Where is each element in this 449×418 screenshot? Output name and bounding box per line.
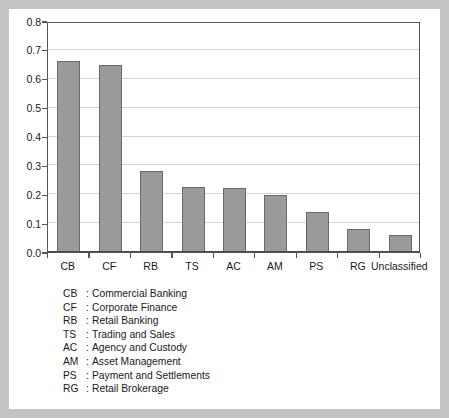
y-axis-tick-label: 0.2 xyxy=(1,190,41,201)
legend-entry-description: Retail Banking xyxy=(92,315,158,326)
legend-entry: CB:Commercial Banking xyxy=(63,288,210,302)
legend-entry: AM:Asset Management xyxy=(63,356,210,370)
x-axis-tick-mark xyxy=(171,253,172,258)
legend-entry: RG:Retail Brokerage xyxy=(63,383,210,397)
x-axis-tick-mark xyxy=(213,253,214,258)
bar xyxy=(264,195,287,252)
y-axis-tick-label: 0.8 xyxy=(1,17,41,28)
legend-entry-description: Payment and Settlements xyxy=(92,370,210,381)
legend-entry-separator: : xyxy=(83,342,92,353)
bar xyxy=(306,212,329,252)
legend-entry-separator: : xyxy=(83,356,92,367)
legend-entry-description: Retail Brokerage xyxy=(92,383,169,394)
legend: CB:Commercial BankingCF:Corporate Financ… xyxy=(63,288,210,397)
x-axis-line xyxy=(48,251,419,252)
legend-entry-description: Trading and Sales xyxy=(92,329,175,340)
x-axis-tick-mark xyxy=(379,253,380,258)
legend-entry-abbreviation: RG xyxy=(63,383,83,394)
y-axis-tick-label: 0.1 xyxy=(1,219,41,230)
legend-entry: CF:Corporate Finance xyxy=(63,302,210,316)
bar xyxy=(223,188,246,252)
legend-entry-abbreviation: PS xyxy=(63,370,83,381)
x-axis-tick-mark xyxy=(337,253,338,258)
y-axis-tick-label: 0.4 xyxy=(1,132,41,143)
legend-entry-abbreviation: RB xyxy=(63,315,83,326)
x-axis-tick-label: Unclassified xyxy=(359,261,439,272)
y-axis-tick-label: 0.7 xyxy=(1,45,41,56)
legend-entry: PS:Payment and Settlements xyxy=(63,370,210,384)
x-axis-tick-mark xyxy=(420,253,421,258)
legend-entry-description: Asset Management xyxy=(92,356,181,367)
legend-entry: TS:Trading and Sales xyxy=(63,329,210,343)
x-axis-tick-mark xyxy=(47,253,48,258)
legend-entry-description: Commercial Banking xyxy=(92,288,187,299)
bar xyxy=(347,229,370,252)
x-axis-tick-mark xyxy=(130,253,131,258)
legend-entry-abbreviation: AC xyxy=(63,342,83,353)
legend-entry-separator: : xyxy=(83,302,92,313)
x-axis-tick-mark xyxy=(296,253,297,258)
legend-entry-description: Agency and Custody xyxy=(92,342,187,353)
legend-entry: RB:Retail Banking xyxy=(63,315,210,329)
bar xyxy=(57,61,80,252)
bar xyxy=(389,235,412,252)
figure: 0.00.10.20.30.40.50.60.70.8 CBCFRBTSACAM… xyxy=(0,0,449,418)
legend-entry-description: Corporate Finance xyxy=(92,302,177,313)
legend-entry-abbreviation: CF xyxy=(63,302,83,313)
y-axis-tick-label: 0.0 xyxy=(1,248,41,259)
legend-entry-abbreviation: CB xyxy=(63,288,83,299)
legend-entry-abbreviation: AM xyxy=(63,356,83,367)
legend-entry-abbreviation: TS xyxy=(63,329,83,340)
legend-entry-separator: : xyxy=(83,288,92,299)
bar xyxy=(99,65,122,252)
x-axis-tick-mark xyxy=(254,253,255,258)
bar xyxy=(182,187,205,252)
y-axis-tick-label: 0.5 xyxy=(1,103,41,114)
plot-area xyxy=(47,22,420,253)
legend-entry-separator: : xyxy=(83,370,92,381)
y-axis-tick-label: 0.6 xyxy=(1,74,41,85)
gridline xyxy=(48,49,419,50)
legend-entry-separator: : xyxy=(83,315,92,326)
legend-entry-separator: : xyxy=(83,329,92,340)
y-axis-tick-label: 0.3 xyxy=(1,161,41,172)
bar xyxy=(140,171,163,252)
legend-entry-separator: : xyxy=(83,383,92,394)
x-axis-tick-mark xyxy=(88,253,89,258)
legend-entry: AC:Agency and Custody xyxy=(63,342,210,356)
